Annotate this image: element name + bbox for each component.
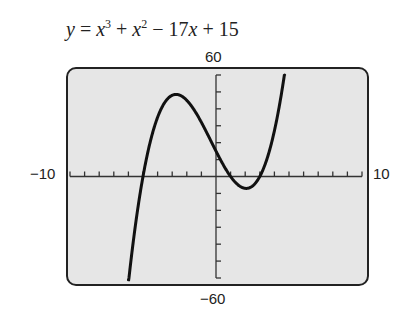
graph-screen <box>0 0 407 320</box>
